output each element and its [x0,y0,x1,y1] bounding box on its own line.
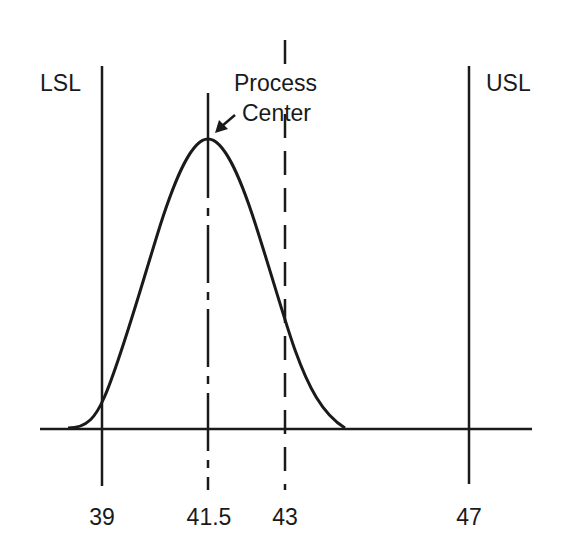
tick-label-39: 39 [89,506,115,529]
tick-label-41-5: 41.5 [187,506,232,529]
process-center-label-line2: Center [242,102,311,125]
lsl-label: LSL [40,72,81,95]
normal-distribution-curve [68,139,345,428]
process-center-label-line1: Process [234,72,317,95]
tick-label-43: 43 [272,506,298,529]
tick-label-47: 47 [456,506,482,529]
usl-label: USL [486,72,531,95]
process-center-arrow-shaft [222,115,235,126]
